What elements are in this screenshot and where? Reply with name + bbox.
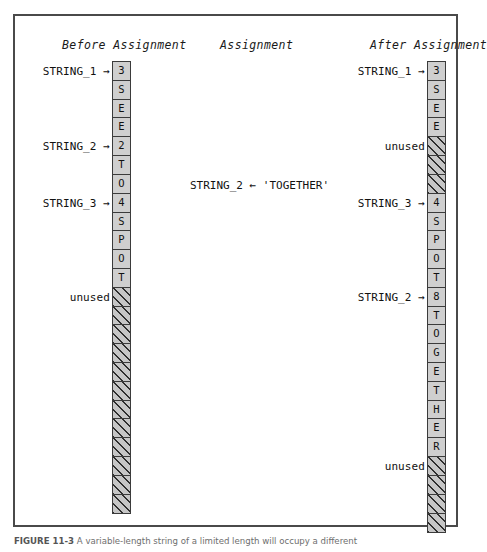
memory-cell-unused: [112, 418, 131, 438]
memory-cell-unused: [427, 513, 446, 533]
column-heading-after: After Assignment: [370, 38, 487, 52]
memory-cell-unused: [427, 475, 446, 495]
unused-label: unused: [385, 460, 425, 473]
memory-cell-unused: [112, 306, 131, 326]
figure-caption-text: A variable-length string of a limited le…: [77, 536, 357, 546]
memory-cell-unused: [112, 437, 131, 457]
memory-cell: S: [427, 212, 446, 232]
figure-caption-label: FIGURE 11-3: [14, 536, 74, 546]
assignment-statement: STRING_2 ← 'TOGETHER': [190, 179, 329, 192]
memory-column-before: 3SEE2TO4SPOT: [112, 61, 131, 514]
memory-cell: E: [427, 99, 446, 119]
memory-cell-unused: [112, 400, 131, 420]
memory-cell-unused: [112, 381, 131, 401]
memory-cell-unused: [427, 494, 446, 514]
memory-cell: 3: [427, 61, 446, 81]
memory-cell: T: [427, 306, 446, 326]
column-heading-assignment: Assignment: [220, 38, 293, 52]
memory-cell-unused: [112, 362, 131, 382]
memory-cell: T: [427, 268, 446, 288]
memory-cell: E: [427, 418, 446, 438]
memory-cell: H: [427, 400, 446, 420]
pointer-label: STRING_2 →: [358, 291, 425, 304]
memory-cell-unused: [112, 494, 131, 514]
memory-cell: P: [427, 230, 446, 250]
memory-cell: E: [427, 117, 446, 137]
figure-frame: Before Assignment Assignment After Assig…: [13, 14, 458, 527]
memory-cell: O: [427, 324, 446, 344]
memory-cell: E: [427, 362, 446, 382]
pointer-label: STRING_2 →: [43, 140, 110, 153]
memory-cell: O: [112, 249, 131, 269]
memory-cell: E: [112, 117, 131, 137]
memory-cell: O: [427, 249, 446, 269]
column-heading-before: Before Assignment: [62, 38, 187, 52]
memory-cell-unused: [427, 136, 446, 156]
memory-cell: S: [427, 80, 446, 100]
memory-cell: O: [112, 174, 131, 194]
memory-cell-unused: [112, 324, 131, 344]
memory-cell: 4: [427, 193, 446, 213]
memory-cell-unused: [427, 456, 446, 476]
memory-cell: 2: [112, 136, 131, 156]
memory-cell: T: [112, 155, 131, 175]
memory-cell: 8: [427, 287, 446, 307]
pointer-label: STRING_1 →: [43, 65, 110, 78]
memory-cell: G: [427, 343, 446, 363]
memory-cell-unused: [112, 475, 131, 495]
memory-cell: E: [112, 99, 131, 119]
memory-cell: T: [427, 381, 446, 401]
memory-cell-unused: [112, 343, 131, 363]
memory-cell: S: [112, 80, 131, 100]
unused-label: unused: [70, 291, 110, 304]
unused-label: unused: [385, 140, 425, 153]
figure-caption: FIGURE 11-3 A variable-length string of …: [14, 536, 466, 547]
memory-cell: S: [112, 212, 131, 232]
pointer-label: STRING_3 →: [358, 197, 425, 210]
memory-cell: 3: [112, 61, 131, 81]
memory-cell-unused: [427, 174, 446, 194]
memory-cell-unused: [112, 287, 131, 307]
memory-cell: R: [427, 437, 446, 457]
memory-cell: P: [112, 230, 131, 250]
memory-cell: T: [112, 268, 131, 288]
memory-column-after: 3SEE4SPOT8TOGETHER: [427, 61, 446, 533]
pointer-label: STRING_1 →: [358, 65, 425, 78]
memory-cell-unused: [427, 155, 446, 175]
pointer-label: STRING_3 →: [43, 197, 110, 210]
memory-cell: 4: [112, 193, 131, 213]
memory-cell-unused: [112, 456, 131, 476]
